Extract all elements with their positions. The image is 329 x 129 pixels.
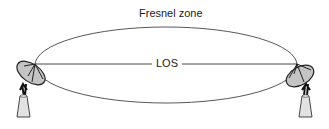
los-label: LOS <box>152 57 182 69</box>
satellite-dish-icon-left <box>13 56 50 117</box>
fresnel-zone-label: Fresnel zone <box>139 7 203 19</box>
satellite-dish-icon-right <box>283 61 318 117</box>
